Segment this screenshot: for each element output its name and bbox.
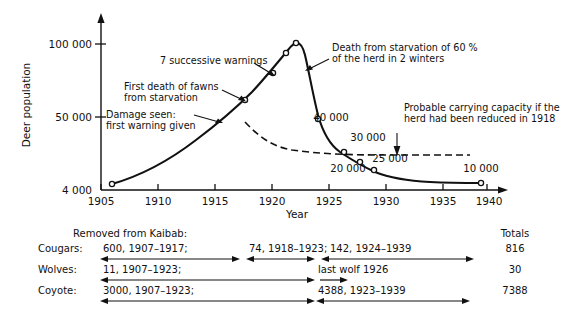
wolves-total: 30 bbox=[509, 264, 522, 275]
cougars-arrow-2-left-head bbox=[246, 256, 254, 262]
figure-root: 100 000 50 000 4 000 1905 1910 1915 1920… bbox=[0, 0, 563, 310]
cougars-arrow-1-right-head bbox=[232, 256, 240, 262]
annotation-carrying-capacity-line1: Probable carrying capacity if the bbox=[404, 102, 560, 113]
table-row-cougars: Cougars: 600, 1907–1917; 74, 1918–1923; … bbox=[38, 243, 525, 262]
row-label-coyote: Coyote: bbox=[38, 285, 77, 296]
x-tick-label-1930: 1930 bbox=[373, 195, 400, 207]
data-point-1906 bbox=[109, 181, 114, 186]
cougars-arrow-3-left-head bbox=[321, 256, 329, 262]
data-point-1924-peak bbox=[293, 40, 298, 45]
coyote-arrow-1-right-head bbox=[307, 298, 315, 304]
annotation-carrying-capacity-line2: herd had been reduced in 1918 bbox=[404, 113, 555, 124]
wolves-arrow-1-right-head bbox=[307, 277, 315, 283]
coyote-segment-2-text: 4388, 1923–1939 bbox=[318, 285, 406, 296]
table-row-coyote: Coyote: 3000, 1907–1923; 4388, 1923–1939… bbox=[38, 285, 528, 304]
cougars-segment-1-text: 600, 1907–1917; bbox=[103, 243, 188, 254]
y-axis-arrowhead bbox=[97, 13, 104, 23]
cougars-segment-2-text: 74, 1918–1923; bbox=[249, 243, 327, 254]
coyote-arrow-2-right-head bbox=[462, 298, 470, 304]
row-label-wolves: Wolves: bbox=[38, 264, 77, 275]
annotation-damage-seen-line2: first warning given bbox=[106, 120, 196, 131]
x-axis-title: Year bbox=[285, 208, 309, 220]
leader-starvation-arrowhead bbox=[305, 65, 313, 71]
cougars-arrow-3-right-head bbox=[466, 256, 474, 262]
wolves-segment-1-text: 11, 1907–1923; bbox=[103, 264, 181, 275]
annotation-7-successive-warnings: 7 successive warnings bbox=[160, 55, 267, 66]
annotation-death-starvation-line2: of the herd in 2 winters bbox=[332, 53, 444, 64]
x-tick-label-1910: 1910 bbox=[145, 195, 172, 207]
leader-damage bbox=[194, 115, 219, 122]
table-totals-header: Totals bbox=[500, 228, 530, 239]
coyote-segment-1-text: 3000, 1907–1923; bbox=[103, 285, 194, 296]
data-label-40000: 40 000 bbox=[313, 112, 349, 123]
data-point-1931-20000 bbox=[371, 167, 376, 172]
data-label-20000: 20 000 bbox=[330, 163, 366, 174]
wolves-arrow-2-right-head bbox=[340, 277, 348, 283]
table-row-wolves: Wolves: 11, 1907–1923; last wolf 1926 30 bbox=[38, 264, 521, 283]
y-tick-label-50000: 50 000 bbox=[55, 111, 92, 123]
data-point-1923 bbox=[283, 50, 288, 55]
cougars-total: 816 bbox=[505, 243, 524, 254]
coyote-arrow-2-left-head bbox=[316, 298, 324, 304]
x-tick-label-1925: 1925 bbox=[316, 195, 343, 207]
x-tick-label-1915: 1915 bbox=[202, 195, 229, 207]
x-tick-label-1935: 1935 bbox=[430, 195, 457, 207]
annotation-first-death-fawns-line2: from starvation bbox=[124, 92, 198, 103]
leader-starvation bbox=[309, 59, 329, 69]
annotation-damage-seen-line1: Damage seen: bbox=[106, 109, 176, 120]
row-label-cougars: Cougars: bbox=[38, 243, 83, 254]
cougars-arrow-2-right-head bbox=[307, 256, 315, 262]
removal-table: Removed from Kaibab: Totals Cougars: 600… bbox=[38, 228, 529, 304]
x-tick-label-1940: 1940 bbox=[476, 195, 503, 207]
kaibab-deer-figure: 100 000 50 000 4 000 1905 1910 1915 1920… bbox=[0, 0, 563, 310]
x-tick-label-1920: 1920 bbox=[259, 195, 286, 207]
coyote-total: 7388 bbox=[502, 285, 527, 296]
table-caption: Removed from Kaibab: bbox=[73, 228, 187, 239]
cougars-arrow-1-left-head bbox=[100, 256, 108, 262]
data-point-1929-30000 bbox=[341, 149, 346, 154]
wolves-arrow-1-left-head bbox=[100, 277, 108, 283]
data-point-1939-10000 bbox=[478, 180, 483, 185]
y-axis-title: Deer population bbox=[20, 63, 32, 148]
cougars-segment-3-text: 142, 1924–1939 bbox=[330, 243, 411, 254]
annotation-first-death-fawns-line1: First death of fawns bbox=[124, 81, 218, 92]
x-tick-label-1905: 1905 bbox=[88, 195, 115, 207]
x-axis-arrowhead bbox=[498, 186, 508, 193]
wolves-segment-2-text: last wolf 1926 bbox=[318, 264, 388, 275]
data-label-30000: 30 000 bbox=[350, 132, 386, 143]
y-tick-label-100000: 100 000 bbox=[49, 38, 92, 50]
data-label-25000: 25 000 bbox=[372, 153, 408, 164]
data-label-10000: 10 000 bbox=[463, 163, 499, 174]
annotation-death-starvation-line1: Death from starvation of 60 % bbox=[332, 42, 478, 53]
coyote-arrow-1-left-head bbox=[100, 298, 108, 304]
